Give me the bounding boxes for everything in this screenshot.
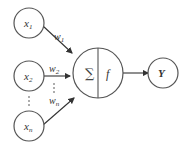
weight-wn: wn <box>49 95 60 108</box>
neuron-node: ∑ f <box>73 48 123 98</box>
weight-w1: w1 <box>54 31 64 44</box>
input-node-xn: xn <box>14 111 44 141</box>
weight-w2: w2 <box>49 63 60 76</box>
input-ellipsis <box>28 96 30 106</box>
output-node: Y <box>148 58 178 88</box>
perceptron-diagram: x1 x2 xn w1 w2 wn ∑ f Y <box>0 0 185 146</box>
input-node-x2: x2 <box>14 61 44 91</box>
sum-symbol: ∑ <box>85 66 95 81</box>
weight-ellipsis <box>53 83 55 93</box>
input-node-x1: x1 <box>14 8 44 38</box>
